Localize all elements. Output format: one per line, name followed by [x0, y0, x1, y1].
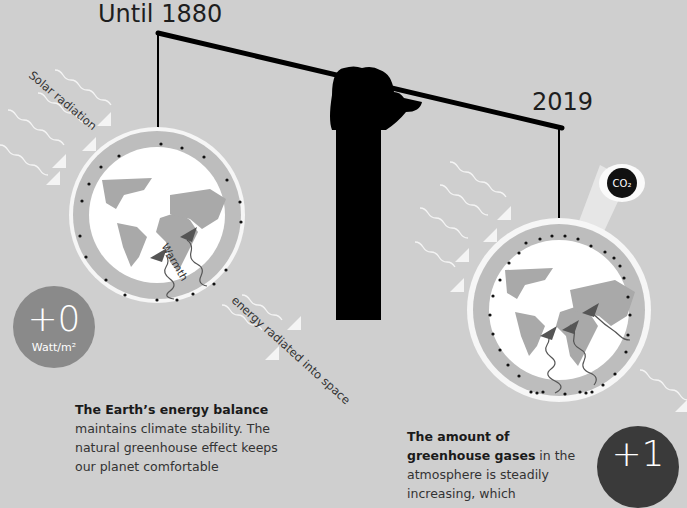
right-description: The amount of greenhouse gases in the at… [407, 427, 597, 503]
badge-value: +0 [27, 301, 80, 337]
left-description-bold: The Earth’s energy balance [75, 402, 268, 417]
energy-badge-left: +0 Watt/m² [13, 286, 95, 368]
left-description: The Earth’s energy balance maintains cli… [75, 400, 295, 476]
badge-value: +1 [611, 436, 664, 472]
co2-icon: CO₂ [607, 168, 637, 198]
left-description-body: maintains climate stability. The natural… [75, 421, 278, 474]
right-description-bold: The amount of greenhouse gases [407, 429, 535, 463]
fist-arm-icon [330, 67, 422, 321]
energy-badge-right: +1 [597, 426, 679, 508]
left-globe [69, 127, 245, 303]
year-label-left: Until 1880 [98, 0, 222, 28]
right-globe [467, 218, 651, 402]
year-label-right: 2019 [532, 88, 593, 116]
badge-unit: Watt/m² [32, 341, 76, 354]
